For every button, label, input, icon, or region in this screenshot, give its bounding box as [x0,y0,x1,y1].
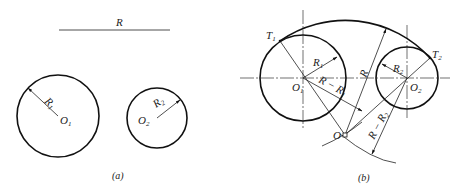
figure-b: R1 R2 R − R1 R R − R2 O O1 O2 T1 T2 (b) [240,10,450,184]
r-line-label: R [115,16,123,28]
figure-a: R R1 O1 R2 O2 (a) [17,16,187,182]
caption-a: (a) [112,170,124,182]
o1-label-a: O1 [60,114,71,128]
r1-label-a: R1 [41,94,59,112]
o-label-b: O [333,129,341,141]
locus-arc-r-minus-r2 [340,134,396,163]
caption-b: (b) [358,172,370,184]
point-o-marker [343,133,347,137]
tangent-point-t1 [279,40,282,43]
tangent-arc-construction-diagram: R R1 O1 R2 O2 (a) R1 R2 [0,0,463,192]
o2-label-a: O2 [138,114,150,128]
tangent-arc-r [280,20,430,58]
t1-label: T1 [266,29,276,43]
r-minus-r1-label: R − R1 [315,73,349,100]
r1-label-b: R1 [312,56,323,70]
locus-arc-r-minus-r1 [322,122,362,146]
o1-label-b: O1 [292,81,303,95]
r2-label-a: R2 [149,94,167,112]
r2-label-b: R2 [392,62,404,76]
o2-label-b: O2 [410,81,422,95]
t2-label: T2 [432,48,442,62]
tangent-point-t2 [429,57,432,60]
